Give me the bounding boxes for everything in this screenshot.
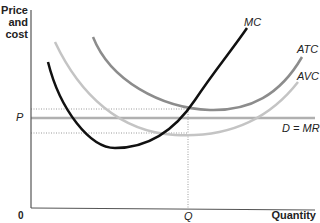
y-axis-label-line1: Price — [0, 4, 28, 16]
y-axis-label-line3: cost — [0, 28, 28, 40]
origin-label: 0 — [18, 210, 24, 221]
mc-label: MC — [244, 16, 261, 28]
dmr-label: D = MR — [282, 122, 320, 134]
y-axis-label: Price and cost — [0, 4, 28, 40]
atc-curve — [93, 37, 302, 110]
q-tick-label: Q — [184, 210, 193, 222]
atc-label: ATC — [297, 43, 318, 55]
x-axis-label: Quantity — [271, 209, 316, 221]
p-tick-label: P — [16, 111, 23, 123]
y-axis-label-line2: and — [0, 16, 28, 28]
chart-canvas — [0, 0, 320, 223]
avc-label: AVC — [297, 70, 319, 82]
